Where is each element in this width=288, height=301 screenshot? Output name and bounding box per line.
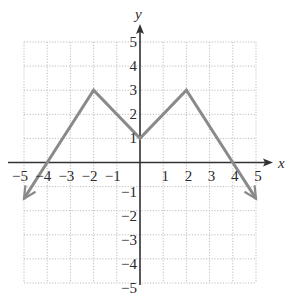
y-tick-label: −1 — [121, 184, 137, 200]
y-tick-label: 4 — [130, 58, 138, 74]
y-tick-label: −3 — [121, 232, 137, 248]
x-tick-label: −1 — [105, 168, 121, 184]
x-tick-label: −2 — [82, 168, 98, 184]
y-tick-label: 1 — [130, 130, 138, 146]
x-tick-label: 2 — [185, 168, 193, 184]
x-tick-label: 3 — [208, 168, 216, 184]
x-tick-label: −4 — [35, 168, 51, 184]
x-tick-label: 4 — [231, 168, 239, 184]
y-tick-label: 5 — [130, 34, 138, 50]
x-tick-label: 1 — [161, 168, 169, 184]
tick-labels: −5−4−3−2−112345−5−4−3−2−112345 — [12, 34, 262, 296]
x-tick-label: −5 — [12, 168, 28, 184]
y-tick-label: −5 — [121, 280, 137, 296]
y-tick-label: 3 — [130, 82, 138, 98]
y-axis-label: y — [133, 6, 142, 22]
y-tick-label: −4 — [121, 256, 137, 272]
y-tick-label: 2 — [130, 106, 138, 122]
x-tick-label: 5 — [254, 168, 262, 184]
function-graph: xy −5−4−3−2−112345−5−4−3−2−112345 — [0, 0, 288, 301]
y-tick-label: −2 — [121, 208, 137, 224]
axes: xy — [8, 6, 285, 285]
x-tick-label: −3 — [58, 168, 74, 184]
x-axis-label: x — [277, 155, 285, 171]
